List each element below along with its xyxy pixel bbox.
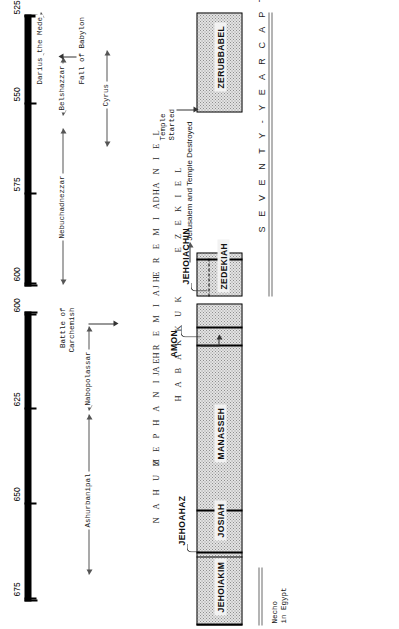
event-label-fall-of-babylon: Fall of Babylon	[77, 16, 86, 84]
callout-bracket-amon	[180, 324, 201, 337]
king-label-amon: AMON	[168, 329, 178, 357]
axis-label-675: 675	[11, 582, 21, 596]
ruler-label-belshazzar: Belshazzar	[57, 63, 65, 112]
king-label-jehoiachin: JEHOIACHIN	[180, 228, 190, 284]
axis-tick-550	[24, 102, 36, 104]
king-label-josiah: JOSIAH	[214, 500, 226, 540]
king-divider-jehoiakim	[196, 556, 242, 557]
axis-label-625: 625	[11, 392, 21, 406]
axis-tick-675	[24, 597, 36, 599]
timeline-canvas: 675 650 625 600 Ashurbanipal Nabopolassa…	[0, 0, 399, 629]
event-label-temple-started: Temple Started	[158, 108, 176, 140]
axis-label-650: 650	[11, 487, 21, 501]
ruler-label-darius: Darius the Mede	[35, 14, 43, 86]
axis-tick-525	[24, 15, 36, 17]
axis-tick-575	[24, 192, 36, 194]
timeline-row-600-525: 600 575 550 525 Nebuchadnezzar Belshazza…	[0, 0, 399, 300]
ruler-label-cyrus: Cyrus	[101, 81, 109, 108]
ruler-label-nebuchadnezzar: Nebuchadnezzar	[57, 173, 65, 240]
king-label-zerubbabel: ZERUBBABEL	[214, 22, 226, 91]
king-divider-manasseh-amon	[196, 623, 242, 625]
king-divider-amon-end	[196, 326, 242, 328]
axis-tick-600b	[24, 282, 36, 284]
king-divider-jehoiachin	[208, 258, 209, 296]
axis-label-550: 550	[11, 87, 21, 101]
callout-bracket-jehoahaz	[186, 543, 199, 552]
ruler-label-ashurbanipal: Ashurbanipal	[83, 471, 91, 529]
event-leader-fall-of-babylon	[62, 56, 76, 57]
callout-bracket-jehoiachin	[190, 282, 207, 291]
timeline-row-675-600: 675 650 625 600 Ashurbanipal Nabopolassa…	[0, 300, 399, 629]
axis-bar-row1	[24, 311, 31, 601]
king-divider-jehoahaz	[196, 551, 242, 553]
axis-bar-row2	[24, 14, 31, 286]
prophet-nahum: N A H U M	[150, 455, 160, 523]
axis-label-600b: 600	[11, 267, 21, 281]
axis-label-575: 575	[11, 177, 21, 191]
necho-rule	[258, 567, 262, 625]
event-leader-carchemish	[88, 323, 114, 324]
event-leader-temple-started	[176, 109, 194, 110]
king-label-jehoiakim: JEHOIAKIM	[214, 558, 226, 615]
axis-tick-650	[24, 502, 36, 504]
king-label-manasseh: MANASSEH	[214, 404, 226, 462]
axis-tick-600	[24, 313, 36, 315]
king-label-zedekiah: ZEDEKIAH	[217, 239, 229, 292]
axis-label-525: 525	[11, 0, 21, 14]
captivity-label: S E V E N T Y - Y E A R C A P T I V I T …	[256, 0, 266, 238]
event-label-carchemish: Battle of Carchemish	[58, 307, 76, 369]
captivity-rule	[268, 12, 272, 296]
king-label-jehoahaz: JEHOAHAZ	[176, 495, 186, 545]
event-label-necho: Necho in Egypt	[270, 587, 288, 623]
event-label-jerusalem-destroyed: Jerusalem and Temple Destroyed	[184, 121, 194, 240]
axis-tick-625	[24, 407, 36, 409]
callout-bracket-amon-stem	[200, 336, 218, 346]
ruler-label-nabopolassar: Nabopolassar	[83, 349, 91, 407]
